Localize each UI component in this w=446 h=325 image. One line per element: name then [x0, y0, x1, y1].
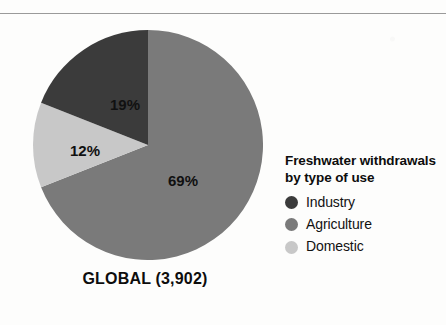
- pie-chart: 69% 12% 19%: [33, 30, 263, 260]
- legend-item-domestic: Domestic: [285, 239, 445, 254]
- legend-label-industry: Industry: [306, 195, 355, 210]
- pie-slices: [33, 30, 263, 260]
- data-label-agriculture: 69%: [168, 172, 198, 189]
- circle-swatch-icon-industry: [285, 196, 298, 209]
- legend-item-agriculture: Agriculture: [285, 217, 445, 232]
- pie-chart-figure: 69% 12% 19% GLOBAL (3,902) Freshwater wi…: [0, 0, 446, 325]
- circle-swatch-icon-domestic: [285, 241, 298, 254]
- legend-title-line-2: by type of use: [285, 169, 445, 186]
- pie-chart-svg: 69% 12% 19%: [33, 30, 263, 260]
- data-label-domestic: 12%: [70, 142, 100, 159]
- chart-caption: GLOBAL (3,902): [0, 270, 290, 288]
- legend-item-list: Industry Agriculture Domestic: [285, 195, 445, 255]
- legend-label-agriculture: Agriculture: [306, 217, 372, 232]
- legend-label-domestic: Domestic: [306, 239, 364, 254]
- legend-title-line-1: Freshwater withdrawals: [285, 152, 445, 169]
- chart-legend: Freshwater withdrawals by type of use In…: [285, 152, 445, 262]
- data-label-industry: 19%: [110, 96, 140, 113]
- circle-swatch-icon-agriculture: [285, 218, 298, 231]
- legend-item-industry: Industry: [285, 195, 445, 210]
- legend-title: Freshwater withdrawals by type of use: [285, 152, 445, 187]
